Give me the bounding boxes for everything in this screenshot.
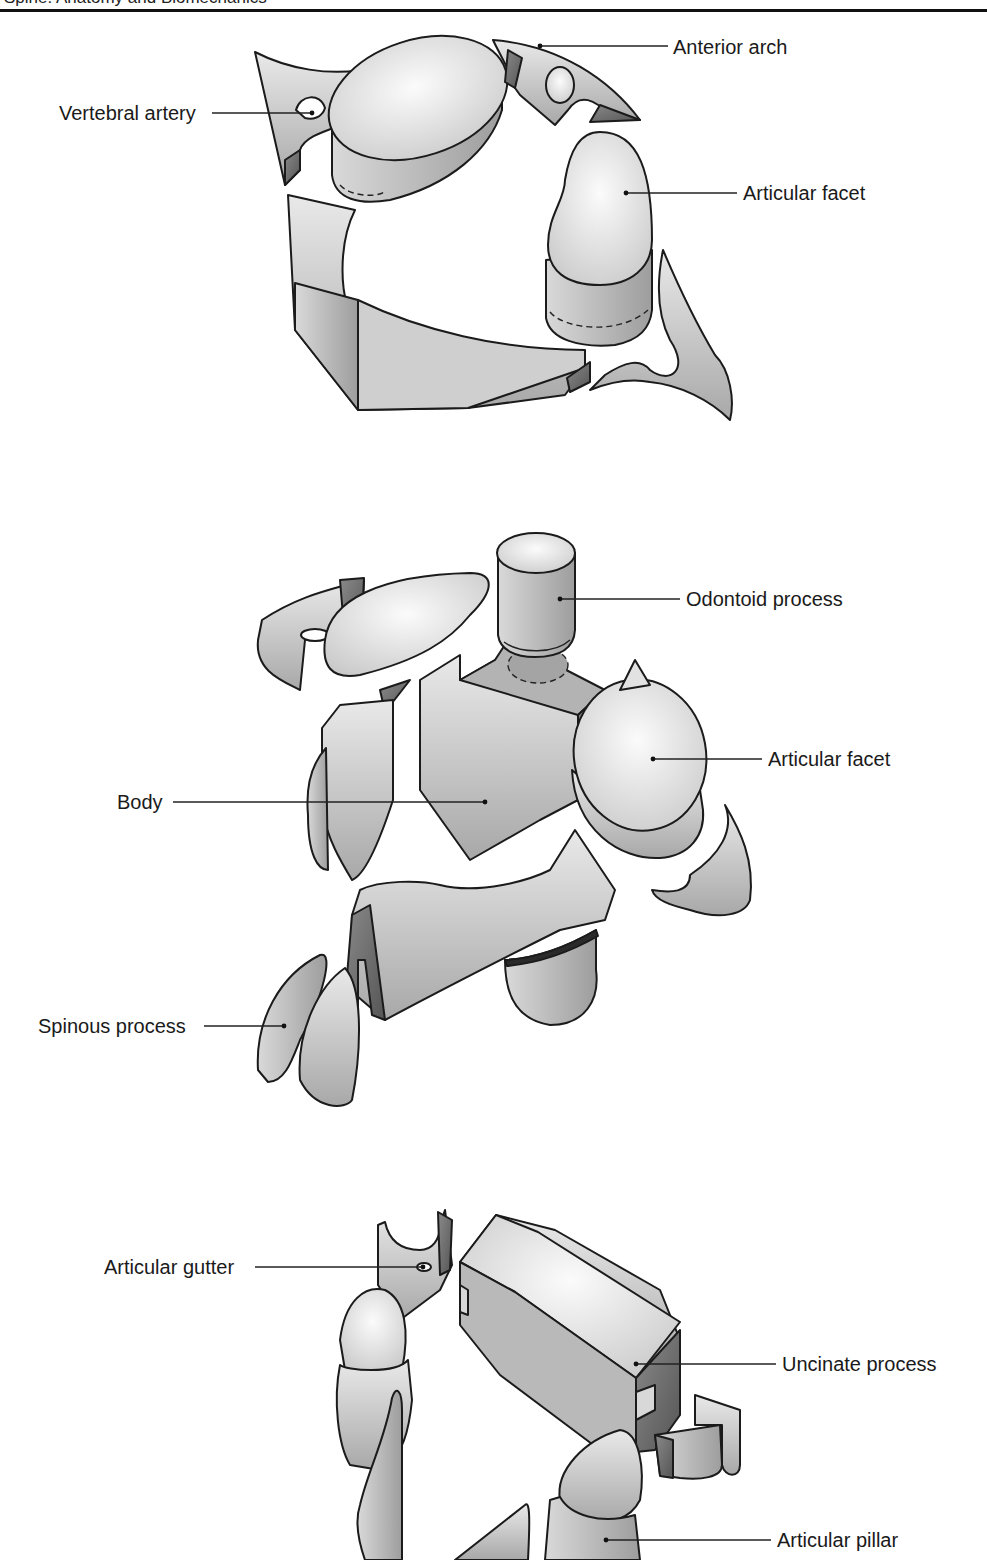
body-notch-left — [460, 1285, 468, 1315]
right-gutter-clip-dark — [655, 1435, 673, 1478]
articular-pillar-top — [559, 1430, 641, 1522]
odontoid-process-top — [497, 533, 575, 573]
articular-gutter-side — [438, 1212, 452, 1275]
label-body: Body — [117, 791, 163, 813]
label-anterior-arch: Anterior arch — [673, 36, 788, 58]
atlas-right-facet-top — [548, 132, 652, 285]
leader-dot — [558, 597, 563, 602]
label-vertebral-artery: Vertebral artery — [59, 102, 196, 124]
leader-dot — [282, 1024, 287, 1029]
label-odontoid-process: Odontoid process — [686, 588, 843, 610]
lower-cervical-figure — [337, 1210, 740, 1560]
vertebrae-illustration — [0, 0, 987, 1560]
atlas-figure — [255, 14, 732, 420]
axis-right-facet-tip — [620, 660, 650, 690]
anterior-tubercle — [546, 67, 574, 103]
leader-dot — [624, 191, 629, 196]
left-pillar-top — [340, 1289, 406, 1370]
atlas-posterior-arch-face — [295, 283, 358, 410]
axis-left-pedicle-side — [307, 748, 328, 870]
leader-dot — [483, 800, 488, 805]
label-uncinate-process: Uncinate process — [782, 1353, 937, 1375]
label-spinous-process: Spinous process — [38, 1015, 186, 1037]
leader-dot — [538, 44, 543, 49]
leader-dot — [604, 1538, 609, 1543]
lower-spinous-tip — [455, 1504, 529, 1560]
label-articular-facet-axis: Articular facet — [768, 748, 890, 770]
label-articular-gutter: Articular gutter — [104, 1256, 234, 1278]
leader-dot — [421, 1265, 426, 1270]
leader-dot — [651, 757, 656, 762]
leader-dot — [310, 111, 315, 116]
axis-figure — [258, 533, 751, 1106]
axis-left-pedicle — [322, 700, 393, 880]
leader-dot — [634, 1362, 639, 1367]
label-articular-facet-atlas: Articular facet — [743, 182, 865, 204]
label-articular-pillar: Articular pillar — [777, 1529, 898, 1551]
